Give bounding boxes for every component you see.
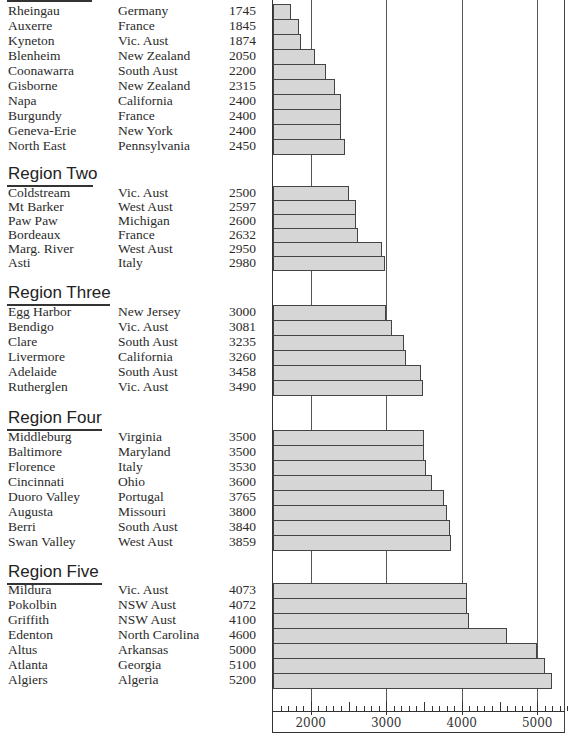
location-name: South Aust — [118, 334, 178, 349]
value-label: 1745 — [196, 3, 256, 18]
minor-tick — [401, 706, 402, 711]
location-name: Ohio — [118, 474, 145, 489]
minor-tick — [545, 706, 546, 711]
value-label: 2200 — [196, 63, 256, 78]
minor-tick — [356, 706, 357, 711]
place-name: Asti — [8, 255, 31, 270]
place-name: Gisborne — [8, 78, 58, 93]
bar — [273, 613, 469, 629]
value-label: 3859 — [196, 534, 256, 549]
place-name: Berri — [8, 519, 36, 534]
minor-tick — [296, 706, 297, 711]
minor-tick — [492, 706, 493, 711]
bar — [273, 228, 358, 243]
minor-tick — [530, 706, 531, 711]
minor-tick — [522, 706, 523, 711]
place-name: Adelaide — [8, 364, 57, 379]
value-label: 2500 — [196, 185, 256, 200]
bar — [273, 109, 341, 125]
place-name: Egg Harbor — [8, 304, 71, 319]
location-name: Italy — [118, 255, 143, 270]
location-name: Vic. Aust — [118, 379, 168, 394]
minor-tick — [424, 702, 425, 711]
heading-underline — [7, 0, 92, 2]
location-name: Arkansas — [118, 642, 168, 657]
minor-tick — [500, 702, 501, 711]
location-name: New York — [118, 123, 173, 138]
minor-tick — [469, 706, 470, 711]
bar — [273, 535, 451, 551]
bar — [273, 460, 426, 476]
value-label: 2400 — [196, 123, 256, 138]
bar — [273, 365, 421, 381]
place-name: Griffith — [8, 612, 49, 627]
location-name: Virginia — [118, 429, 162, 444]
tick-label: 4000 — [442, 716, 482, 730]
value-label: 3500 — [196, 444, 256, 459]
place-name: Mt Barker — [8, 199, 64, 214]
minor-tick — [432, 706, 433, 711]
bar — [273, 380, 423, 396]
value-label: 2950 — [196, 241, 256, 256]
location-name: Vic. Aust — [118, 33, 168, 48]
bar — [273, 4, 291, 20]
minor-tick — [416, 706, 417, 711]
location-name: Vic. Aust — [118, 185, 168, 200]
place-name: Auxerre — [8, 18, 52, 33]
place-name: Swan Valley — [8, 534, 76, 549]
region-heading: Region Three — [8, 283, 111, 302]
bar — [273, 673, 552, 689]
minor-tick — [333, 706, 334, 711]
bar — [273, 64, 326, 80]
value-label: 4073 — [196, 582, 256, 597]
value-label: 4100 — [196, 612, 256, 627]
region-heading: Region Four — [8, 408, 102, 427]
bar — [273, 49, 315, 65]
minor-tick — [341, 706, 342, 711]
location-name: Germany — [118, 3, 168, 18]
place-name: Coonawarra — [8, 63, 74, 78]
bar — [273, 186, 349, 201]
bar — [273, 214, 356, 229]
bar — [273, 34, 301, 50]
tick-label: 2000 — [291, 716, 331, 730]
bar — [273, 124, 341, 140]
minor-tick — [439, 706, 440, 711]
location-name: Vic. Aust — [118, 582, 168, 597]
place-name: Mildura — [8, 582, 52, 597]
location-name: Michigan — [118, 213, 170, 228]
value-label: 3500 — [196, 429, 256, 444]
value-label: 5200 — [196, 672, 256, 687]
minor-tick — [281, 706, 282, 711]
place-name: Burgundy — [8, 108, 62, 123]
value-label: 3260 — [196, 349, 256, 364]
value-label: 2050 — [196, 48, 256, 63]
bar — [273, 643, 537, 659]
major-tick — [537, 701, 538, 715]
location-name: Algeria — [118, 672, 158, 687]
bar — [273, 505, 447, 521]
location-name: NSW Aust — [118, 597, 176, 612]
place-name: Blenheim — [8, 48, 61, 63]
location-name: South Aust — [118, 364, 178, 379]
value-label: 2980 — [196, 255, 256, 270]
place-name: Algiers — [8, 672, 48, 687]
value-label: 2632 — [196, 227, 256, 242]
bar — [273, 200, 356, 215]
region-heading: Region Two — [8, 164, 97, 183]
place-name: Baltimore — [8, 444, 62, 459]
value-label: 2450 — [196, 138, 256, 153]
value-label: 3000 — [196, 304, 256, 319]
bar — [273, 19, 299, 35]
minor-tick — [394, 706, 395, 711]
minor-tick — [567, 706, 568, 711]
place-name: Geneva-Erie — [8, 123, 76, 138]
minor-tick — [326, 706, 327, 711]
location-name: New Zealand — [118, 48, 190, 63]
value-label: 3458 — [196, 364, 256, 379]
minor-tick — [560, 706, 561, 711]
place-name: Rheingau — [8, 3, 60, 18]
minor-tick — [371, 706, 372, 711]
bar — [273, 320, 392, 336]
minor-tick — [507, 706, 508, 711]
